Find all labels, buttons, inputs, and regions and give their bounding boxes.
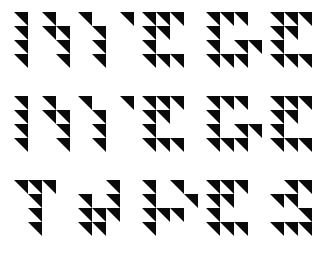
glyph-cell-triangle [56, 26, 70, 40]
triangle-tr-icon [284, 222, 298, 236]
triangle-tr-icon [220, 96, 234, 110]
triangle-tr-icon [248, 40, 262, 54]
glyph-cell-triangle [92, 138, 106, 152]
glyph-cell-empty [170, 40, 184, 54]
glyph-cell-empty [184, 180, 198, 194]
glyph-row [14, 96, 326, 152]
glyph-cell-triangle [170, 54, 184, 68]
triangle-tr-icon [220, 180, 234, 194]
glyph-cell-empty [106, 40, 120, 54]
glyph-cell-triangle [156, 12, 170, 26]
glyph-cell-triangle [142, 180, 156, 194]
glyph-cell-empty [312, 54, 326, 68]
glyph-cell-empty [156, 194, 170, 208]
glyph-row [14, 180, 326, 236]
glyph-cell-empty [170, 222, 184, 236]
triangle-tr-icon [56, 40, 70, 54]
triangle-tr-icon [270, 194, 284, 208]
triangle-tr-icon [42, 96, 56, 110]
triangle-tr-icon [92, 138, 106, 152]
glyph-cell-empty [248, 12, 262, 26]
glyph-cell-empty [28, 96, 42, 110]
glyph-cell-triangle [142, 54, 156, 68]
triangle-tr-icon [14, 110, 28, 124]
glyph-cell-empty [298, 26, 312, 40]
glyph-cell-empty [106, 124, 120, 138]
triangle-tr-icon [170, 54, 184, 68]
glyph-cell-triangle [284, 12, 298, 26]
glyph-cell-empty [312, 138, 326, 152]
glyph-cell-triangle [14, 124, 28, 138]
triangle-tr-icon [234, 180, 248, 194]
glyph-cell-empty [106, 110, 120, 124]
glyph-cell-empty [42, 222, 56, 236]
glyph-cell-triangle [142, 194, 156, 208]
triangle-tr-icon [170, 180, 184, 194]
triangle-tr-icon [78, 208, 92, 222]
triangle-tr-icon [220, 12, 234, 26]
glyph-cell-triangle [156, 138, 170, 152]
glyph-cell-triangle [106, 194, 120, 208]
glyph-cell-triangle [220, 222, 234, 236]
glyph-cell-empty [184, 12, 198, 26]
glyph-cell-triangle [206, 180, 220, 194]
glyph-cell-empty [312, 124, 326, 138]
glyph-cell-triangle [284, 110, 298, 124]
glyph-cell-empty [42, 124, 56, 138]
glyph-cell-empty [170, 26, 184, 40]
glyph-cell-empty [312, 26, 326, 40]
glyph-cell-triangle [106, 180, 120, 194]
glyph-cell-empty [120, 208, 134, 222]
glyph-cell-triangle [92, 222, 106, 236]
triangle-tr-icon [92, 54, 106, 68]
triangle-tr-icon [284, 96, 298, 110]
glyph-cell-empty [170, 194, 184, 208]
glyph-cell-empty [298, 110, 312, 124]
triangle-tr-icon [284, 26, 298, 40]
triangle-tr-icon [142, 180, 156, 194]
glyph-cell-empty [120, 54, 134, 68]
glyph-cell-empty [248, 110, 262, 124]
glyph-cell-triangle [92, 124, 106, 138]
glyph-cell-triangle [42, 180, 56, 194]
triangle-tr-icon [270, 222, 284, 236]
triangle-tr-icon [56, 124, 70, 138]
glyph-cell-triangle [142, 110, 156, 124]
glyph-r3c4 [206, 180, 262, 236]
triangle-tr-icon [14, 138, 28, 152]
glyph-cell-empty [220, 110, 234, 124]
triangle-tr-icon [42, 26, 56, 40]
glyph-cell-triangle [284, 194, 298, 208]
triangle-tr-icon [284, 180, 298, 194]
triangle-tr-icon [92, 40, 106, 54]
glyph-cell-triangle [142, 138, 156, 152]
glyph-cell-empty [42, 54, 56, 68]
triangle-tr-icon [284, 194, 298, 208]
glyph-cell-triangle [170, 180, 184, 194]
triangle-tr-icon [206, 96, 220, 110]
glyph-row [14, 12, 326, 68]
glyph-cell-empty [28, 110, 42, 124]
triangle-tr-icon [156, 54, 170, 68]
triangle-tr-icon [284, 110, 298, 124]
glyph-cell-empty [120, 138, 134, 152]
triangle-tr-icon [156, 12, 170, 26]
triangle-tr-icon [234, 40, 248, 54]
glyph-cell-empty [120, 110, 134, 124]
triangle-tr-icon [42, 110, 56, 124]
triangle-tr-icon [206, 124, 220, 138]
glyph-cell-empty [42, 40, 56, 54]
glyph-cell-empty [284, 124, 298, 138]
triangle-tr-icon [184, 194, 198, 208]
triangle-tr-icon [56, 138, 70, 152]
triangle-tr-icon [234, 138, 248, 152]
glyph-r2c3 [142, 96, 198, 152]
glyph-cell-triangle [56, 54, 70, 68]
glyph-cell-empty [248, 180, 262, 194]
glyph-cell-empty [28, 40, 42, 54]
triangle-tr-icon [14, 180, 28, 194]
glyph-cell-empty [248, 96, 262, 110]
glyph-cell-triangle [284, 222, 298, 236]
glyph-cell-triangle [234, 40, 248, 54]
glyph-cell-triangle [298, 208, 312, 222]
